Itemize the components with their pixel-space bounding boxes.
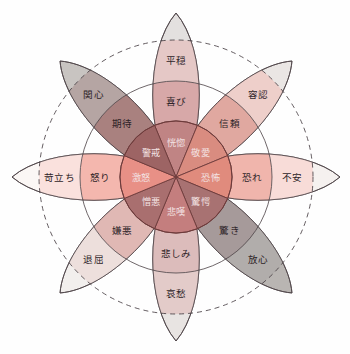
label-middle-surprise: 驚き (219, 225, 240, 236)
emotion-wheel-svg: 恍惚喜び平穏敬愛信頼容認恐怖恐れ不安驚愕驚き放心悲嘆悲しみ哀愁憎悪嫌悪退屈激怒怒… (0, 0, 350, 354)
label-core-joy: 恍惚 (167, 137, 186, 148)
label-core-anticipation: 警戒 (142, 147, 161, 158)
label-outer-trust: 容認 (248, 89, 269, 100)
label-outer-surprise: 放心 (248, 254, 269, 265)
label-core-surprise: 驚愕 (191, 196, 210, 207)
label-outer-anticipation: 関心 (83, 89, 104, 100)
label-middle-trust: 信頼 (219, 118, 240, 129)
label-core-fear: 恐怖 (201, 172, 220, 183)
label-outer-fear: 不安 (282, 172, 303, 183)
label-outer-anger: 苛立ち (44, 172, 75, 183)
label-middle-joy: 喜び (166, 96, 187, 107)
label-outer-disgust: 退屈 (83, 254, 104, 265)
label-middle-anger: 怒り (90, 172, 111, 183)
label-core-disgust: 憎悪 (142, 196, 161, 207)
emotion-wheel-diagram: 恍惚喜び平穏敬愛信頼容認恐怖恐れ不安驚愕驚き放心悲嘆悲しみ哀愁憎悪嫌悪退屈激怒怒… (0, 0, 350, 354)
label-outer-sadness: 哀愁 (166, 288, 187, 299)
label-core-anger: 激怒 (132, 172, 151, 183)
label-middle-fear: 恐れ (242, 172, 263, 183)
label-middle-anticipation: 期待 (112, 118, 133, 129)
label-outer-joy: 平穏 (166, 55, 187, 66)
label-middle-sadness: 悲しみ (161, 248, 192, 259)
label-middle-disgust: 嫌悪 (112, 225, 133, 236)
label-core-sadness: 悲嘆 (167, 206, 186, 217)
label-core-trust: 敬愛 (191, 147, 210, 158)
